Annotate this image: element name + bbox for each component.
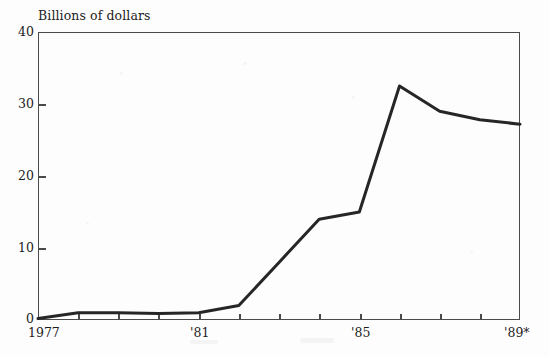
x-tick-label-1989: '89* xyxy=(504,327,530,340)
plot-area xyxy=(38,32,520,320)
data-series-line xyxy=(38,32,520,320)
y-tick-label-40: 40 xyxy=(6,26,34,39)
y-tick-label-20: 20 xyxy=(6,170,34,183)
scan-noise xyxy=(190,340,218,344)
scan-noise xyxy=(300,338,334,343)
chart-title: Billions of dollars xyxy=(38,8,151,23)
y-tick-label-0: 0 xyxy=(6,313,34,326)
series-polyline xyxy=(38,86,520,319)
y-tick-label-30: 30 xyxy=(6,98,34,111)
x-tick-label-1985: '85 xyxy=(351,327,370,340)
y-tick-label-10: 10 xyxy=(6,242,34,255)
x-tick-label-1981: '81 xyxy=(190,327,209,340)
x-tick-label-1977: 1977 xyxy=(28,327,60,340)
chart-figure: Billions of dollars 40 30 20 10 0 1977 '… xyxy=(0,0,549,357)
